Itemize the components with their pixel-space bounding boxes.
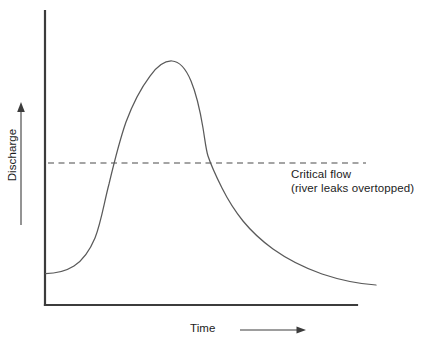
right-arrow-icon bbox=[297, 326, 307, 333]
critical-flow-annotation: Critical flow (river leaks overtopped) bbox=[291, 168, 414, 195]
y-axis-label: Discharge bbox=[6, 129, 20, 182]
critical-flow-annotation-line2: (river leaks overtopped) bbox=[291, 182, 414, 196]
x-axis-label: Time bbox=[190, 322, 216, 336]
critical-flow-annotation-line1: Critical flow bbox=[291, 168, 414, 182]
up-arrow-icon bbox=[17, 102, 25, 112]
hydrograph-figure: Discharge Time Critical flow (river leak… bbox=[0, 0, 434, 347]
